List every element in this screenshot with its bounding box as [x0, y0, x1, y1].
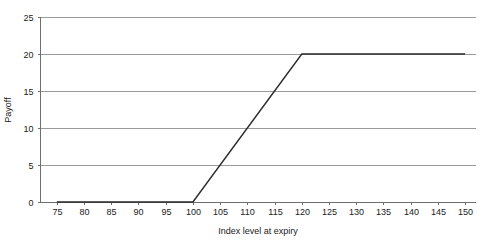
- x-tick-label: 75: [52, 207, 62, 217]
- y-tick-label: 25: [23, 13, 33, 23]
- x-tick-label: 130: [349, 207, 364, 217]
- y-tick-label: 20: [23, 50, 33, 60]
- x-tick-label: 110: [240, 207, 254, 217]
- y-tick-label: 15: [23, 87, 33, 97]
- y-axis-title: Payoff: [3, 97, 13, 123]
- payoff-chart-figure: 0510152025 75808590951001051101151201251…: [0, 0, 485, 241]
- y-tick-label: 5: [28, 161, 33, 171]
- x-tick-label: 125: [322, 207, 337, 217]
- x-tick-label: 140: [404, 207, 419, 217]
- x-tick-label: 145: [431, 207, 446, 217]
- y-tick-label: 0: [28, 198, 33, 208]
- x-axis-title: Index level at expiry: [218, 226, 298, 236]
- x-tick-label: 135: [376, 207, 391, 217]
- x-tick-label: 90: [133, 207, 143, 217]
- y-tick-label: 10: [23, 124, 33, 134]
- x-tick-label: 80: [79, 207, 89, 217]
- x-tick-label: 120: [295, 207, 310, 217]
- x-tick-label: 150: [458, 207, 473, 217]
- x-tick-label: 100: [186, 207, 201, 217]
- x-tick-label: 115: [268, 207, 282, 217]
- x-tick-label: 105: [213, 207, 228, 217]
- x-tick-label: 95: [161, 207, 171, 217]
- payoff-chart-svg: 0510152025 75808590951001051101151201251…: [0, 0, 485, 241]
- x-tick-label: 85: [106, 207, 116, 217]
- chart-background: [0, 0, 485, 241]
